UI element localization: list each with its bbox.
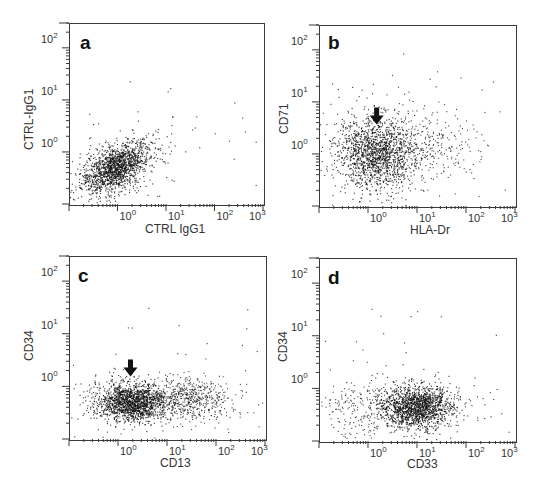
plot-area-c	[69, 256, 267, 441]
x-tick-label: 103	[501, 211, 518, 224]
plot-area-d	[319, 258, 517, 443]
y-tick-label: 100	[291, 138, 308, 151]
y-axis-label-b: CD71	[277, 103, 291, 134]
y-tick-label: 102	[291, 34, 308, 47]
x-axis-label-d: CD33	[407, 457, 438, 471]
plot-area-a	[69, 23, 265, 206]
panel-letter-a: a	[80, 33, 91, 52]
y-tick-label: 101	[291, 86, 308, 99]
y-axis-label-c: CD34	[22, 330, 36, 361]
x-tick-label: 100	[120, 444, 137, 457]
x-tick-label: 101	[419, 211, 436, 224]
y-tick-label: 102	[41, 265, 58, 278]
panel-letter-c: c	[78, 266, 89, 285]
x-tick-label: 102	[218, 444, 235, 457]
x-tick-label: 100	[120, 209, 137, 222]
x-tick-label: 102	[468, 211, 485, 224]
y-tick-label: 100	[41, 370, 58, 383]
y-axis-label-a: CTRL-IgG1	[22, 89, 36, 150]
y-tick-label: 101	[291, 320, 308, 333]
x-axis-label-b: HLA-Dr	[410, 223, 450, 237]
x-tick-label: 101	[169, 444, 186, 457]
x-axis-label-c: CD13	[160, 456, 191, 470]
x-tick-label: 102	[217, 209, 234, 222]
y-tick-label: 101	[41, 84, 58, 97]
y-tick-label: 101	[41, 318, 58, 331]
figure: a CTRL-IgG1 CTRL IgG1 b CD71 HLA-Dr c CD…	[0, 0, 536, 487]
x-tick-label: 101	[168, 209, 185, 222]
x-tick-label: 100	[370, 211, 387, 224]
panel-letter-b: b	[328, 33, 340, 52]
x-tick-label: 102	[468, 446, 485, 459]
y-tick-label: 100	[291, 372, 308, 385]
plot-area-b	[319, 25, 517, 208]
x-tick-label: 101	[419, 446, 436, 459]
x-tick-label: 103	[501, 446, 518, 459]
y-tick-label: 100	[41, 136, 58, 149]
y-tick-label: 102	[291, 267, 308, 280]
x-tick-label: 100	[370, 446, 387, 459]
panel-letter-d: d	[328, 268, 340, 287]
x-tick-label: 103	[249, 209, 266, 222]
y-axis-label-d: CD34	[276, 331, 290, 362]
x-axis-label-a: CTRL IgG1	[145, 222, 205, 236]
x-tick-label: 103	[251, 444, 268, 457]
y-tick-label: 102	[41, 32, 58, 45]
